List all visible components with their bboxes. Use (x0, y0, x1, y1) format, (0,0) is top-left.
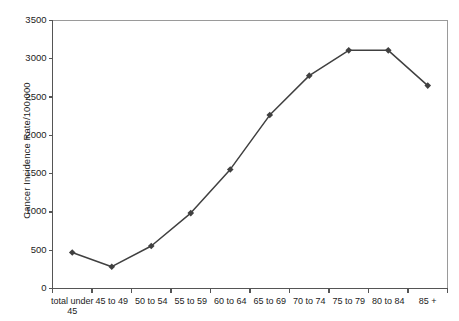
data-series (69, 47, 431, 270)
data-point-marker (69, 249, 76, 256)
axes (49, 21, 448, 293)
cancer-incidence-line-chart: Cancer Incidence Rate/100,000 0500100015… (0, 0, 459, 321)
series-line (72, 50, 428, 266)
data-point-marker (108, 263, 115, 270)
plot-area (0, 0, 459, 321)
